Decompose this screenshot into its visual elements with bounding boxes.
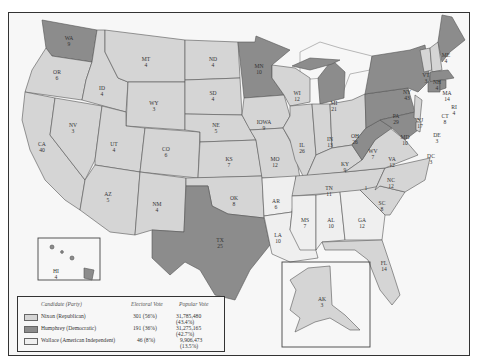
state-wy[interactable]	[126, 82, 185, 130]
state-fl[interactable]	[322, 240, 400, 305]
legend-header-electoral: Electoral Vote	[131, 301, 163, 307]
svg-text:6: 6	[275, 204, 278, 210]
svg-text:10: 10	[256, 69, 262, 75]
svg-text:4: 4	[156, 207, 159, 213]
svg-text:9: 9	[344, 167, 347, 173]
svg-text:7: 7	[372, 154, 375, 160]
svg-text:10: 10	[275, 238, 281, 244]
svg-text:12: 12	[294, 96, 300, 102]
svg-text:4: 4	[145, 62, 148, 68]
svg-text:4: 4	[101, 91, 104, 97]
svg-text:26: 26	[299, 148, 305, 154]
svg-text:5: 5	[107, 197, 110, 203]
legend: Candidate (Party) Electoral Vote Popular…	[17, 296, 225, 352]
state-az[interactable]	[80, 165, 140, 235]
svg-text:12: 12	[272, 162, 278, 168]
independent-swatch	[24, 338, 38, 345]
svg-text:4: 4	[113, 147, 116, 153]
svg-text:7: 7	[304, 223, 307, 229]
svg-text:17: 17	[417, 123, 423, 129]
svg-text:14: 14	[381, 266, 387, 272]
svg-text:26: 26	[352, 139, 358, 145]
svg-text:9: 9	[68, 41, 71, 47]
state-ar[interactable]	[262, 176, 296, 216]
svg-text:14: 14	[444, 96, 450, 102]
legend-row-wallace: Wallace (American Independent) 46 (8%) 9…	[24, 337, 220, 346]
svg-text:40: 40	[39, 147, 45, 153]
svg-text:8: 8	[381, 206, 384, 212]
svg-text:25: 25	[217, 243, 223, 249]
svg-text:8: 8	[233, 201, 236, 207]
state-co[interactable]	[140, 128, 200, 178]
svg-text:6: 6	[165, 152, 168, 158]
legend-row-nixon: Nixon (Republican) 301 (56%) 31,785,480 …	[24, 313, 220, 322]
svg-text:4: 4	[55, 274, 58, 280]
svg-text:3: 3	[321, 302, 324, 308]
svg-text:12: 12	[359, 223, 365, 229]
svg-text:12: 12	[388, 183, 394, 189]
svg-text:11: 11	[326, 191, 332, 197]
legend-header-candidate: Candidate (Party)	[41, 301, 82, 307]
svg-text:4: 4	[212, 62, 215, 68]
svg-text:10: 10	[402, 140, 408, 146]
svg-text:43: 43	[404, 95, 410, 101]
svg-text:12: 12	[389, 162, 395, 168]
svg-text:1: 1	[365, 185, 368, 191]
legend-header-popular: Popular Vote	[179, 301, 208, 307]
svg-text:8: 8	[444, 119, 447, 125]
svg-text:3: 3	[425, 78, 428, 84]
svg-text:3: 3	[430, 159, 433, 165]
svg-text:5: 5	[215, 128, 218, 134]
democratic-swatch	[24, 326, 38, 333]
svg-text:21: 21	[331, 106, 337, 112]
svg-text:4: 4	[436, 85, 439, 91]
svg-text:10: 10	[328, 223, 334, 229]
legend-row-humphrey: Humphrey (Democratic) 191 (36%) 31,275,1…	[24, 325, 220, 334]
svg-text:13: 13	[327, 142, 333, 148]
svg-text:4: 4	[453, 110, 456, 116]
republican-swatch	[24, 314, 38, 321]
svg-text:3: 3	[153, 106, 156, 112]
svg-text:4: 4	[212, 96, 215, 102]
svg-text:6: 6	[56, 75, 59, 81]
svg-text:3: 3	[72, 128, 75, 134]
svg-text:29: 29	[393, 119, 399, 125]
svg-text:9: 9	[263, 125, 266, 131]
svg-text:7: 7	[228, 162, 231, 168]
svg-text:4: 4	[445, 58, 448, 64]
svg-text:3: 3	[436, 138, 439, 144]
